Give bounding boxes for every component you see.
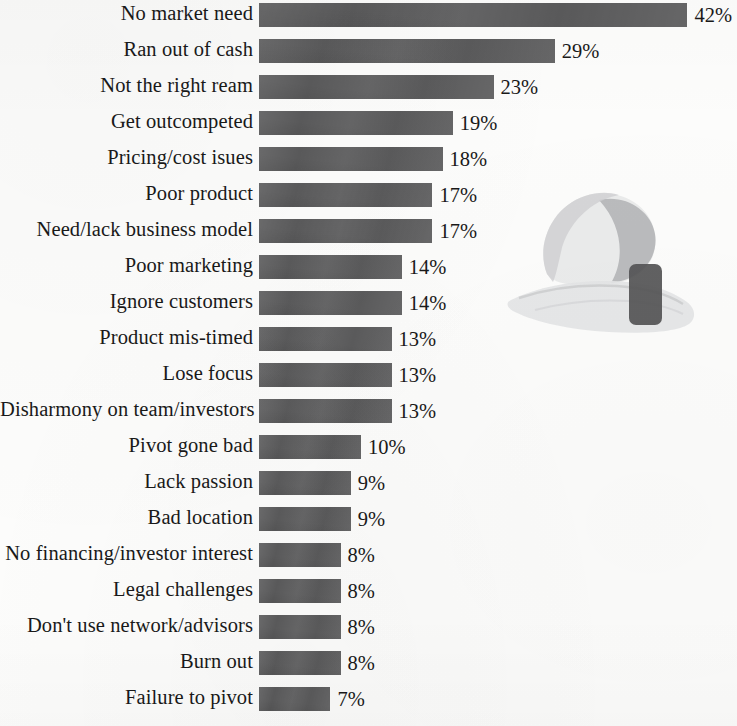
bar-row: Need/lack business model17% [0, 216, 737, 252]
bar-track: 7% [259, 684, 737, 714]
bar-row: Disharmony on team/investors13% [0, 396, 737, 432]
bar-track: 19% [259, 108, 737, 138]
bar-row: Pivot gone bad10% [0, 432, 737, 468]
bar-track: 9% [259, 504, 737, 534]
bar-category-label: Bad location [0, 504, 259, 531]
bar-value-label: 13% [399, 399, 437, 423]
bar-fill [259, 219, 432, 243]
bar-track: 10% [259, 432, 737, 462]
bar-value-label: 14% [409, 291, 447, 315]
bar-fill [259, 255, 402, 279]
bar-value-label: 7% [337, 687, 364, 711]
bar-fill [259, 399, 392, 423]
bar-track: 8% [259, 576, 737, 606]
bar-category-label: Disharmony on team/investors [0, 396, 259, 423]
bar-category-label: Ignore customers [0, 288, 259, 315]
bar-category-label: Ran out of cash [0, 36, 259, 63]
bar-row: Ran out of cash29% [0, 36, 737, 72]
bar-value-label: 9% [358, 507, 385, 531]
bar-track: 8% [259, 648, 737, 678]
bar-row: Bad location9% [0, 504, 737, 540]
bar-category-label: Don't use network/advisors [0, 612, 259, 639]
bar-fill [259, 615, 341, 639]
bar-row: Failure to pivot7% [0, 684, 737, 720]
bar-chart: No market need42%Ran out of cash29%Not t… [0, 0, 737, 726]
bar-fill [259, 579, 341, 603]
bar-row: Lose focus13% [0, 360, 737, 396]
bar-value-label: 13% [399, 327, 437, 351]
bar-value-label: 8% [348, 543, 375, 567]
bar-category-label: Poor product [0, 180, 259, 207]
bar-category-label: Lack passion [0, 468, 259, 495]
bar-row: Get outcompeted19% [0, 108, 737, 144]
bar-row: Poor product17% [0, 180, 737, 216]
bar-fill [259, 327, 392, 351]
bar-category-label: Get outcompeted [0, 108, 259, 135]
bar-category-label: Product mis-timed [0, 324, 259, 351]
bar-row: No market need42% [0, 0, 737, 36]
bar-row: Poor marketing14% [0, 252, 737, 288]
bar-value-label: 23% [501, 75, 539, 99]
bar-row: Ignore customers14% [0, 288, 737, 324]
bar-row: Legal challenges8% [0, 576, 737, 612]
bar-fill [259, 39, 555, 63]
bar-value-label: 29% [562, 39, 600, 63]
bar-category-label: Legal challenges [0, 576, 259, 603]
bar-category-label: Need/lack business model [0, 216, 259, 243]
bar-track: 17% [259, 216, 737, 246]
bar-row: Pricing/cost isues18% [0, 144, 737, 180]
bar-fill [259, 507, 351, 531]
bar-track: 9% [259, 468, 737, 498]
bar-fill [259, 147, 443, 171]
bar-category-label: Lose focus [0, 360, 259, 387]
bar-fill [259, 435, 361, 459]
bar-row: Not the right ream23% [0, 72, 737, 108]
bar-value-label: 9% [358, 471, 385, 495]
bar-fill [259, 651, 341, 675]
bar-track: 8% [259, 612, 737, 642]
bar-value-label: 17% [439, 219, 477, 243]
bar-row: Lack passion9% [0, 468, 737, 504]
bar-category-label: No financing/investor interest [0, 540, 259, 567]
bar-fill [259, 75, 494, 99]
bar-category-label: Not the right ream [0, 72, 259, 99]
bar-track: 13% [259, 396, 737, 426]
bar-value-label: 14% [409, 255, 447, 279]
bar-value-label: 42% [694, 3, 732, 27]
bar-value-label: 13% [399, 363, 437, 387]
bar-row: Burn out8% [0, 648, 737, 684]
bar-rows: No market need42%Ran out of cash29%Not t… [0, 0, 737, 720]
bar-track: 8% [259, 540, 737, 570]
bar-category-label: Pricing/cost isues [0, 144, 259, 171]
bar-fill [259, 471, 351, 495]
bar-fill [259, 111, 453, 135]
bar-value-label: 10% [368, 435, 406, 459]
bar-fill [259, 363, 392, 387]
bar-value-label: 17% [439, 183, 477, 207]
bar-value-label: 19% [460, 111, 498, 135]
bar-fill [259, 687, 330, 711]
bar-value-label: 8% [348, 579, 375, 603]
bar-track: 14% [259, 252, 737, 282]
bar-track: 23% [259, 72, 737, 102]
bar-value-label: 8% [348, 651, 375, 675]
bar-category-label: Burn out [0, 648, 259, 675]
bar-row: No financing/investor interest8% [0, 540, 737, 576]
bar-fill [259, 3, 687, 27]
bar-track: 29% [259, 36, 737, 66]
bar-track: 14% [259, 288, 737, 318]
bar-category-label: Poor marketing [0, 252, 259, 279]
bar-fill [259, 543, 341, 567]
bar-category-label: Failure to pivot [0, 684, 259, 711]
bar-row: Don't use network/advisors8% [0, 612, 737, 648]
bar-value-label: 8% [348, 615, 375, 639]
bar-track: 17% [259, 180, 737, 210]
bar-track: 13% [259, 360, 737, 390]
bar-track: 42% [259, 0, 737, 30]
bar-value-label: 18% [450, 147, 488, 171]
bar-track: 13% [259, 324, 737, 354]
bar-fill [259, 291, 402, 315]
bar-track: 18% [259, 144, 737, 174]
bar-fill [259, 183, 432, 207]
bar-row: Product mis-timed13% [0, 324, 737, 360]
